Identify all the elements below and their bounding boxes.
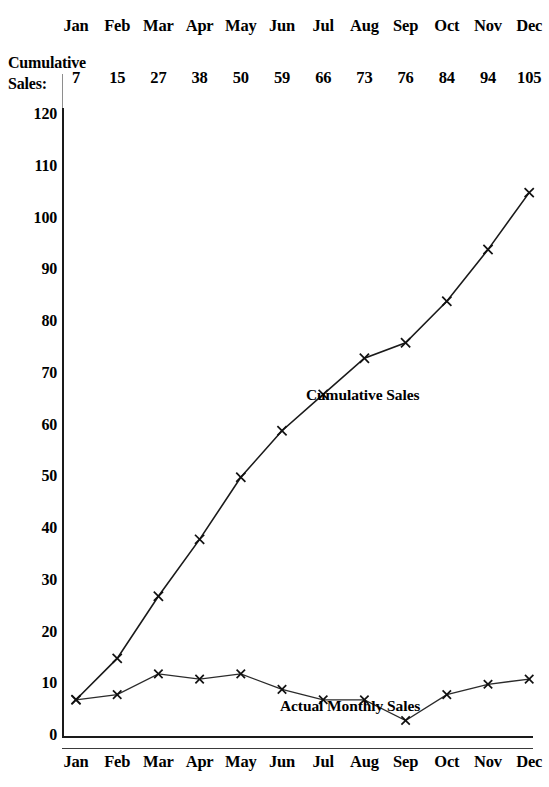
cumulative-sales-markers <box>71 188 533 704</box>
chart-page: JanFebMarAprMayJunJulAugSepOctNovDec Cum… <box>0 0 549 787</box>
x-tick-dec: Dec <box>501 752 549 772</box>
series-paths <box>0 0 549 787</box>
cumulative-sales-annotation: Cumulative Sales <box>306 386 419 404</box>
cumulative-sales-line <box>76 193 529 700</box>
actual-monthly-sales-annotation: Actual Monthly Sales <box>280 697 420 715</box>
line-chart-plot: 1201101009080706050403020100 Cumulative … <box>0 0 549 787</box>
